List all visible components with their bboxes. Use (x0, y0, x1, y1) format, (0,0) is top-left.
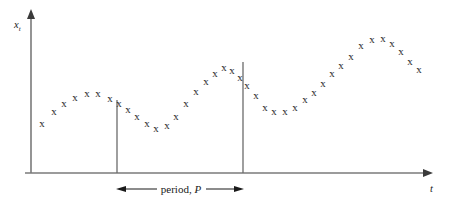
data-point-group: xxxxxxxxxxxxxxxxxxxxxxxxxxxxxxxxxxxxxxxx (39, 32, 422, 134)
data-point-marker: x (116, 97, 122, 109)
period-annotation: period, P (116, 183, 244, 195)
y-axis-label-subscript: t (19, 25, 22, 33)
data-point-marker: x (253, 89, 259, 101)
data-point-marker: x (84, 87, 90, 99)
period-right-arrowhead (234, 186, 244, 192)
data-point-marker: x (173, 110, 179, 122)
data-point-marker: x (348, 50, 354, 62)
data-point-marker: x (262, 101, 268, 113)
data-point-marker: x (193, 85, 199, 97)
data-point-marker: x (125, 103, 131, 115)
data-point-marker: x (164, 119, 170, 131)
data-point-marker: x (203, 75, 209, 87)
data-point-marker: x (95, 87, 101, 99)
data-point-marker: x (302, 93, 308, 105)
period-left-arrowhead (116, 186, 126, 192)
period-label-symbol: P (193, 183, 201, 195)
data-point-marker: x (358, 39, 364, 51)
data-point-marker: x (329, 67, 335, 79)
data-point-marker: x (416, 63, 422, 75)
period-label-prefix: period, (161, 183, 195, 195)
data-point-marker: x (292, 101, 298, 113)
data-point-marker: x (237, 71, 243, 83)
data-point-marker: x (369, 33, 375, 45)
data-point-marker: x (271, 105, 277, 117)
data-point-marker: x (221, 61, 227, 73)
data-point-marker: x (134, 110, 140, 122)
data-point-marker: x (380, 32, 386, 44)
x-axis-arrowhead (423, 169, 433, 177)
data-point-marker: x (389, 37, 395, 49)
data-point-marker: x (398, 45, 404, 57)
data-point-marker: x (282, 105, 288, 117)
data-point-marker: x (183, 97, 189, 109)
data-point-marker: x (39, 117, 45, 129)
x-axis-label: t (430, 183, 434, 194)
data-point-marker: x (107, 92, 113, 104)
data-point-marker: x (320, 77, 326, 89)
data-point-marker: x (407, 55, 413, 67)
data-point-marker: x (338, 59, 344, 71)
data-point-marker: x (153, 122, 159, 134)
data-point-marker: x (51, 105, 57, 117)
data-point-marker: x (144, 117, 150, 129)
data-point-marker: x (61, 97, 67, 109)
data-point-marker: x (244, 79, 250, 91)
time-series-figure: xt t period, P xxxxxxxxxxxxxxxxxxxxxxxxx… (0, 0, 450, 204)
data-point-marker: x (229, 64, 235, 76)
period-label: period, P (161, 183, 202, 195)
y-axis-label: xt (13, 19, 22, 33)
data-point-marker: x (311, 86, 317, 98)
data-point-marker: x (212, 67, 218, 79)
y-axis-arrowhead (27, 9, 35, 19)
data-point-marker: x (72, 91, 78, 103)
plot-canvas: xt t period, P xxxxxxxxxxxxxxxxxxxxxxxxx… (0, 0, 450, 204)
